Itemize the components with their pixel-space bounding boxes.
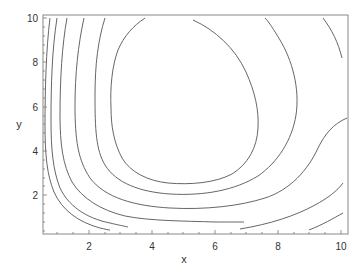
x-tick-label: 4 [149,241,155,252]
plot-frame [43,15,348,234]
y-tick-label: 6 [32,102,38,113]
contour-line-2 [95,18,297,194]
contour-line-8 [240,183,343,229]
y-axis: 10 8 6 4 2 y [16,13,47,231]
contour-line-1 [111,18,258,184]
y-tick-label: 4 [32,146,38,157]
y-tick-label: 2 [32,190,38,201]
x-tick-label: 10 [335,241,347,252]
contour-line-3 [75,18,347,209]
x-tick-label: 2 [86,241,92,252]
x-major-ticks [89,230,341,234]
x-axis-label: x [181,253,187,265]
y-tick-label: 8 [32,57,38,68]
y-axis-label: y [16,118,22,130]
contour-lines [45,18,347,230]
x-axis: 2 4 6 8 10 x [57,230,347,265]
contour-line-6 [45,18,110,230]
y-tick-label: 10 [27,13,39,24]
x-tick-label: 8 [275,241,281,252]
contour-plot: 2 4 6 8 10 x [0,0,364,276]
x-tick-label: 6 [212,241,218,252]
contour-line-9 [309,213,343,230]
contour-line-7 [323,18,342,58]
